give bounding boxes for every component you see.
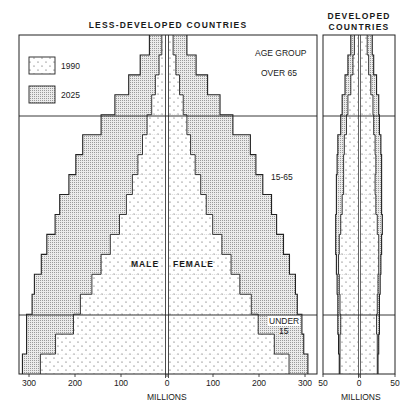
bar-1990-female (360, 334, 377, 354)
dev-x-tick-left: 50 (314, 378, 332, 388)
bar-1990-male (120, 214, 166, 234)
legend-1990-label: 1990 (61, 61, 80, 71)
x-tick-right: 300 (296, 378, 314, 388)
bar-1990-male (344, 155, 358, 175)
male-label: MALE (131, 259, 159, 269)
bar-1990-male (159, 55, 165, 75)
bar-1990-male (74, 314, 166, 334)
bar-1990-male (341, 314, 358, 334)
bar-1990-female (169, 354, 290, 374)
bar-1990-female (169, 274, 240, 294)
bar-1990-female (360, 195, 376, 215)
bar-1990-female (360, 135, 375, 155)
bar-1990-male (340, 334, 358, 354)
bar-1990-male (344, 135, 358, 155)
bar-1990-male (147, 115, 165, 135)
bar-1990-female (360, 354, 377, 374)
bar-1990-female (360, 115, 374, 135)
bar-1990-female (169, 155, 196, 175)
age-group-15-65: 15-65 (271, 172, 293, 182)
bar-1990-female (360, 254, 379, 274)
bar-1990-male (340, 294, 358, 314)
main-chart-title: LESS-DEVELOPED COUNTRIES (19, 20, 317, 30)
bar-1990-female (360, 55, 369, 75)
bar-1990-female (169, 314, 259, 334)
bar-1990-male (346, 115, 358, 135)
x-tick-left: 0 (158, 378, 176, 388)
bar-1990-male (132, 175, 165, 195)
bar-1990-female (360, 95, 373, 115)
female-label: FEMALE (173, 259, 214, 269)
bar-1990-male (138, 155, 166, 175)
bar-1990-female (169, 234, 222, 254)
age-group-under15-line1: UNDER (268, 316, 300, 326)
bar-1990-female (360, 155, 376, 175)
bar-1990-female (360, 214, 377, 234)
x-tick-right: 200 (250, 378, 268, 388)
age-group-under15-line2: 15 (279, 326, 288, 336)
age-group-heading: AGE GROUP (255, 48, 306, 58)
bar-1990-female (169, 95, 184, 115)
bar-1990-female (360, 234, 379, 254)
bar-1990-female (169, 294, 252, 314)
x-tick-left: 100 (112, 378, 130, 388)
bar-1990-female (169, 55, 176, 75)
bar-1990-female (360, 75, 371, 95)
x-tick-left: 300 (20, 378, 38, 388)
bar-1990-male (155, 75, 165, 95)
bar-1990-female (169, 35, 174, 55)
bar-1990-male (339, 274, 358, 294)
bar-1990-female (169, 115, 187, 135)
dev-chart-title-line2: COUNTRIES (318, 22, 400, 32)
bar-1990-male (348, 95, 358, 115)
age-group-over65: OVER 65 (261, 68, 297, 78)
bar-1990-female (360, 175, 375, 195)
dev-x-axis-label: MILLIONS (341, 392, 381, 402)
bar-1990-male (339, 234, 358, 254)
bar-1990-female (360, 274, 378, 294)
legend-2025-label: 2025 (61, 90, 80, 100)
x-tick-left: 200 (66, 378, 84, 388)
bar-1990-female (360, 35, 367, 55)
bar-1990-male (143, 135, 166, 155)
bar-1990-male (126, 195, 165, 215)
bar-1990-male (80, 294, 165, 314)
bar-1990-male (152, 95, 166, 115)
bar-1990-male (162, 35, 166, 55)
bar-1990-male (110, 234, 165, 254)
bar-1990-male (351, 75, 358, 95)
bar-1990-female (169, 334, 275, 354)
bar-1990-male (342, 195, 358, 215)
bar-1990-female (360, 294, 377, 314)
bar-1990-female (169, 75, 180, 95)
bar-1990-male (40, 354, 165, 374)
bar-1990-female (360, 314, 377, 334)
dev-x-tick-left: 0 (350, 378, 368, 388)
dev-x-tick-right: 50 (386, 378, 404, 388)
bar-1990-male (354, 35, 358, 55)
bar-1990-male (353, 55, 358, 75)
bar-1990-female (169, 175, 201, 195)
x-tick-right: 100 (204, 378, 222, 388)
bar-1990-male (340, 354, 358, 374)
bar-1990-female (169, 195, 207, 215)
bar-1990-male (339, 254, 358, 274)
x-axis-label: MILLIONS (147, 392, 187, 402)
bar-1990-male (341, 214, 358, 234)
dev-chart-title-line1: DEVELOPED (318, 11, 400, 21)
bar-1990-male (92, 274, 166, 294)
developed-pyramid (336, 35, 383, 374)
bar-1990-female (169, 214, 213, 234)
bar-1990-female (169, 135, 191, 155)
bar-1990-male (56, 334, 166, 354)
bar-1990-male (344, 175, 358, 195)
